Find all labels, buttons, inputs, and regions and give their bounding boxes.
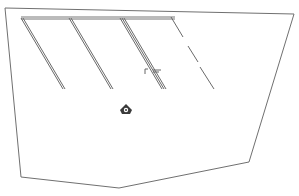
location-marker-icon <box>120 104 132 114</box>
diagram-canvas <box>0 0 299 196</box>
partition-1 <box>21 18 65 89</box>
outer-boundary <box>5 8 294 188</box>
partition-3 <box>120 18 166 89</box>
partition-2 <box>69 18 113 89</box>
floor-plan-svg <box>0 0 299 196</box>
top-wall <box>21 17 175 19</box>
dashed-partition <box>171 17 214 89</box>
